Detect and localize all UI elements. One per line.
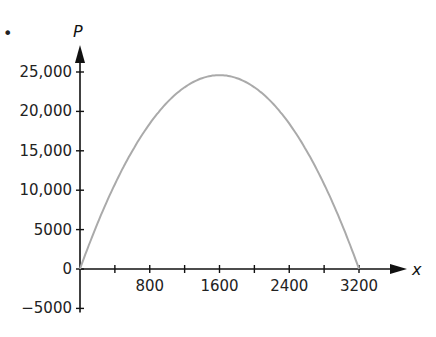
y-axis-label: P: [73, 22, 83, 41]
y-tick-label: 5000: [34, 221, 72, 239]
x-axis-label: x: [411, 260, 422, 279]
y-tick-label: 25,000: [20, 63, 73, 81]
y-axis-arrow-icon: [75, 45, 85, 63]
y-tick-label: 20,000: [20, 102, 73, 120]
bullet-marker: •: [3, 24, 12, 43]
x-tick-label: 1600: [200, 277, 238, 295]
x-tick-label: 3200: [340, 277, 378, 295]
y-tick-label: 15,000: [20, 142, 73, 160]
x-axis-arrow-icon: [390, 264, 407, 274]
y-tick-label: −5000: [21, 299, 72, 317]
x-tick-label: 800: [135, 277, 164, 295]
y-tick-label: 10,000: [20, 181, 73, 199]
y-tick-label: 0: [62, 260, 72, 278]
parabola-chart: • −50000500010,00015,00020,00025,0008001…: [0, 0, 436, 337]
profit-curve: [80, 75, 359, 269]
x-tick-label: 2400: [270, 277, 308, 295]
axes: −50000500010,00015,00020,00025,000800160…: [20, 45, 408, 317]
